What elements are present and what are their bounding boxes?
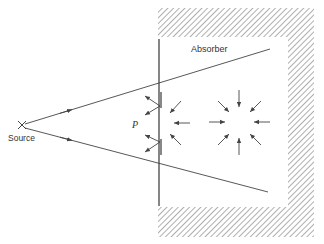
absorber-diagram: Absorber P Source	[0, 0, 324, 244]
point-p-label: P	[131, 119, 138, 130]
source-x-icon	[18, 121, 26, 129]
absorber-hatched-region	[158, 8, 314, 237]
source-label: Source	[8, 133, 35, 143]
outgoing-arrows-upper	[145, 96, 160, 115]
absorber-label: Absorber	[191, 44, 228, 54]
outgoing-arrows-lower	[145, 135, 160, 152]
